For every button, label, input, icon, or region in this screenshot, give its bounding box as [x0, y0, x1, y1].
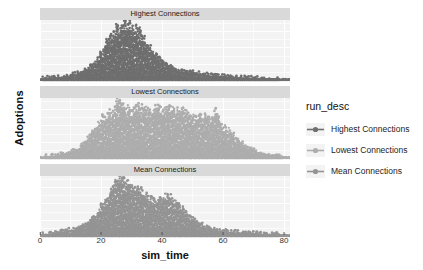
- y-axis-title: Adoptions: [13, 73, 25, 163]
- facet-strip-highest-connections: Highest Connections: [40, 8, 290, 20]
- panel-mean-connections: 0-25-50-75-: [40, 176, 290, 238]
- x-tick-label: 60: [218, 232, 227, 245]
- plot-root: Adoptions Highest Connections 0-25-50-75…: [0, 0, 423, 270]
- data-layer-lowest-connections: [40, 98, 290, 160]
- x-tick-label: 20: [97, 232, 106, 245]
- legend-item-label: Mean Connections: [331, 166, 402, 176]
- scatter-cloud: [40, 20, 290, 82]
- legend-key-icon: [306, 123, 325, 136]
- x-axis-title: sim_time: [40, 249, 290, 261]
- facet-highest-connections: Highest Connections 0-25-50-75-: [40, 8, 290, 82]
- data-layer-highest-connections: [40, 20, 290, 82]
- data-layer-mean-connections: [40, 176, 290, 238]
- facet-strip-label: Lowest Connections: [131, 88, 199, 96]
- legend-item-label: Lowest Connections: [331, 145, 408, 155]
- legend: run_desc Highest Connections Lowest Conn…: [306, 100, 421, 184]
- panel-lowest-connections: 0-25-50-75-: [40, 98, 290, 160]
- facet-strip-lowest-connections: Lowest Connections: [40, 86, 290, 98]
- facet-lowest-connections: Lowest Connections 0-25-50-75-: [40, 86, 290, 160]
- legend-item-label: Highest Connections: [331, 124, 409, 134]
- x-tick-label: 0: [38, 232, 42, 245]
- legend-title: run_desc: [306, 100, 421, 112]
- x-axis: 020406080: [40, 232, 290, 248]
- x-tick-label: 80: [279, 232, 288, 245]
- legend-item-lowest-connections[interactable]: Lowest Connections: [306, 142, 421, 158]
- facet-mean-connections: Mean Connections 0-25-50-75-: [40, 164, 290, 238]
- x-tick-label: 40: [157, 232, 166, 245]
- panel-highest-connections: 0-25-50-75-: [40, 20, 290, 82]
- legend-key-icon: [306, 165, 325, 178]
- scatter-cloud: [40, 98, 290, 160]
- facet-strip-label: Highest Connections: [130, 10, 199, 18]
- facet-strip-label: Mean Connections: [134, 166, 197, 174]
- facet-strip-mean-connections: Mean Connections: [40, 164, 290, 176]
- legend-key-icon: [306, 144, 325, 157]
- scatter-cloud: [40, 176, 290, 238]
- legend-item-mean-connections[interactable]: Mean Connections: [306, 163, 421, 179]
- legend-item-highest-connections[interactable]: Highest Connections: [306, 121, 421, 137]
- facet-column: Highest Connections 0-25-50-75- Lowest C…: [40, 8, 290, 238]
